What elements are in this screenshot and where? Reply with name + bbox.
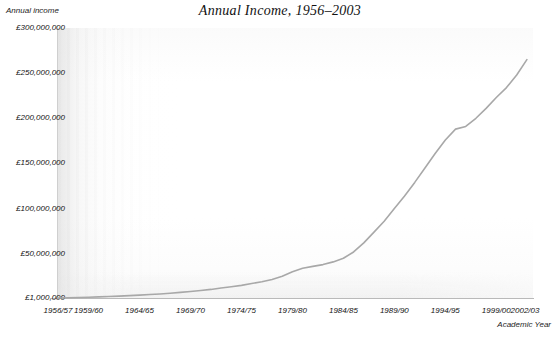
series-line-annual-income: [58, 60, 527, 298]
data-series-layer: [0, 0, 560, 338]
annual-income-line-chart: Annual Income, 1956–2003 Annual income A…: [0, 0, 560, 338]
